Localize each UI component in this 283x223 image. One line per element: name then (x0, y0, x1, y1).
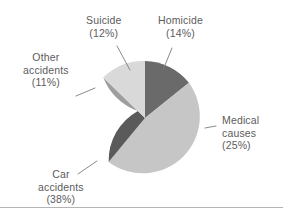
pie-label-medical-causes-line2: causes (222, 127, 259, 140)
leader-line-medical-causes (205, 126, 216, 128)
pie-label-medical-causes-line1: Medical (222, 114, 259, 127)
pie-label-car-accidents: Car accidents (38%) (38, 168, 84, 206)
pie-label-other-accidents-line2: accidents (23, 64, 69, 77)
pie-label-car-accidents-line1: Car (38, 168, 84, 181)
pie-label-suicide: Suicide (12%) (86, 14, 122, 39)
leader-line-other-accidents (76, 88, 95, 96)
pie-label-car-accidents-percent: (38%) (38, 193, 84, 206)
pie-chart-figure: Homicide (14%) Suicide (12%) Other accid… (0, 0, 283, 223)
bottom-divider (0, 207, 283, 208)
pie-label-medical-causes-percent: (25%) (222, 139, 259, 152)
pie-label-medical-causes: Medical causes (25%) (222, 114, 259, 152)
pie-label-homicide: Homicide (14%) (158, 14, 203, 39)
pie-label-other-accidents-percent: (11%) (23, 76, 69, 89)
pie-slice-suicide (103, 61, 145, 118)
pie-label-homicide-percent: (14%) (158, 27, 203, 40)
pie-label-suicide-percent: (12%) (86, 27, 122, 40)
pie-label-suicide-name: Suicide (86, 14, 122, 27)
pie-slices (103, 61, 199, 173)
pie-label-car-accidents-line2: accidents (38, 181, 84, 194)
pie-label-homicide-name: Homicide (158, 14, 203, 27)
pie-label-other-accidents: Other accidents (11%) (23, 51, 69, 89)
pie-label-other-accidents-line1: Other (23, 51, 69, 64)
